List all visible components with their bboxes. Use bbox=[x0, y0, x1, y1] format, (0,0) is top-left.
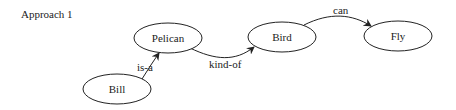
edge-label-kind-of: kind-of bbox=[209, 58, 242, 70]
node-pelican[interactable]: Pelican bbox=[134, 23, 202, 53]
edge-label-is-a: is-a bbox=[137, 61, 153, 73]
edge-pelican-bird: kind-of bbox=[190, 47, 254, 70]
node-bill[interactable]: Bill bbox=[83, 74, 151, 104]
node-label-bill: Bill bbox=[109, 83, 126, 95]
edge-bird-fly: can bbox=[304, 4, 371, 26]
edge-label-can: can bbox=[333, 4, 349, 16]
node-label-pelican: Pelican bbox=[152, 32, 185, 44]
semantic-network-diagram: is-a kind-of can Pelican Bill Bird Fly bbox=[0, 0, 456, 110]
node-label-bird: Bird bbox=[272, 31, 292, 43]
node-bird[interactable]: Bird bbox=[248, 22, 316, 52]
node-fly[interactable]: Fly bbox=[364, 21, 432, 51]
node-label-fly: Fly bbox=[391, 30, 406, 42]
edge-bill-pelican: is-a bbox=[137, 53, 159, 79]
